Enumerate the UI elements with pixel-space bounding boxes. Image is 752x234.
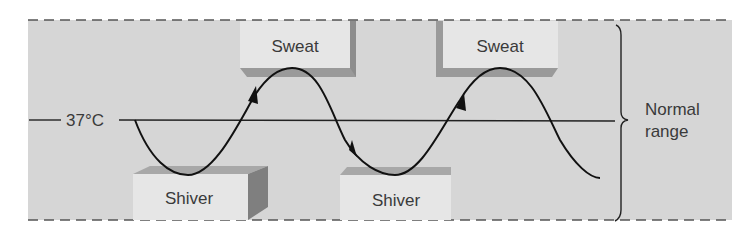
normal-range-label-line2: range bbox=[645, 122, 688, 141]
thermoregulation-diagram: Sweat Sweat Shiver Shiver 37°C Normal ra… bbox=[0, 0, 752, 234]
shiver-label-1: Shiver bbox=[165, 189, 214, 208]
setpoint-label: 37°C bbox=[66, 111, 104, 130]
setpoint-line bbox=[119, 120, 615, 121]
shiver-label-2: Shiver bbox=[372, 191, 421, 210]
sweat-label-1: Sweat bbox=[271, 37, 319, 56]
normal-range-label-line1: Normal bbox=[645, 100, 700, 119]
sweat-label-2: Sweat bbox=[476, 37, 524, 56]
shiver-box-1: Shiver bbox=[133, 166, 268, 220]
